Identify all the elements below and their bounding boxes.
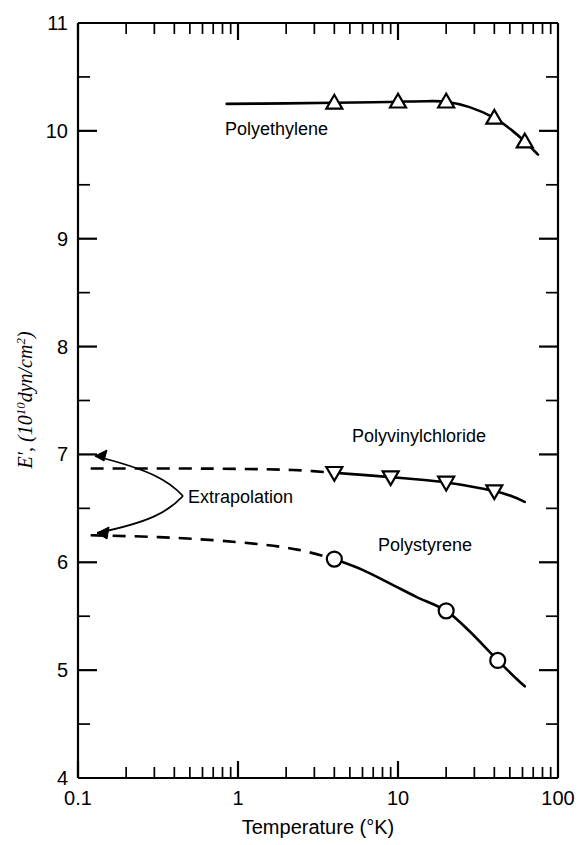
- series-label-polyethylene: Polyethylene: [225, 119, 328, 139]
- y-axis-title: E′, (1010dyn/cm2): [13, 331, 38, 470]
- figure-container: 0.1110100 4567891011 Polyethylene Polyvi…: [0, 0, 585, 845]
- x-tick-label: 0.1: [64, 787, 92, 809]
- extrapolation-label: Extrapolation: [188, 487, 293, 507]
- y-tick-label: 4: [57, 767, 68, 789]
- data-marker-circle: [327, 552, 342, 567]
- y-tick-label: 5: [57, 659, 68, 681]
- y-tick-label: 11: [47, 12, 68, 34]
- x-axis-title: Temperature (°K): [242, 816, 395, 838]
- y-tick-label: 8: [57, 336, 68, 358]
- y-tick-label: 9: [57, 228, 68, 250]
- x-tick-label: 1: [232, 787, 243, 809]
- y-tick-label: 7: [57, 443, 68, 465]
- x-tick-label: 100: [541, 787, 574, 809]
- y-axis-title-group: E′, (1010dyn/cm2): [13, 331, 38, 470]
- series-label-polyvinylchloride: Polyvinylchloride: [352, 426, 486, 446]
- y-tick-label: 6: [57, 551, 68, 573]
- chart-svg: 0.1110100 4567891011 Polyethylene Polyvi…: [0, 0, 585, 845]
- data-marker-circle: [490, 653, 505, 668]
- series-label-polystyrene: Polystyrene: [378, 535, 472, 555]
- y-tick-label: 10: [46, 120, 68, 142]
- data-marker-circle: [439, 603, 454, 618]
- x-tick-label: 10: [387, 787, 409, 809]
